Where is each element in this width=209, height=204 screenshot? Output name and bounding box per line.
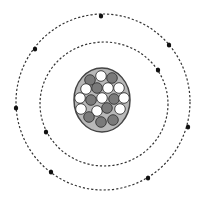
proton-particle: [107, 73, 118, 84]
proton-particle: [84, 112, 95, 123]
nucleus: [74, 68, 130, 132]
electron-inner: [156, 67, 160, 72]
neutron-particle: [96, 71, 107, 82]
electron-outer: [99, 13, 103, 18]
electron-outer: [167, 42, 171, 47]
proton-particle: [108, 115, 119, 126]
neutron-particle: [75, 93, 86, 104]
proton-particle: [96, 117, 107, 128]
atom-diagram: [0, 0, 209, 204]
neutron-particle: [114, 83, 125, 94]
electron-outer: [49, 169, 53, 174]
proton-particle: [92, 83, 103, 94]
neutron-particle: [103, 83, 114, 94]
neutron-particle: [76, 104, 87, 115]
electron-outer: [33, 46, 37, 51]
neutron-particle: [115, 104, 126, 115]
neutron-particle: [119, 93, 130, 104]
electron-outer: [14, 105, 18, 110]
proton-particle: [86, 95, 97, 106]
electron-outer: [146, 175, 150, 180]
proton-particle: [109, 94, 120, 105]
electron-outer: [186, 124, 190, 129]
electron-inner: [44, 129, 48, 134]
proton-particle: [102, 103, 113, 114]
neutron-particle: [97, 93, 108, 104]
neutron-particle: [81, 84, 92, 95]
